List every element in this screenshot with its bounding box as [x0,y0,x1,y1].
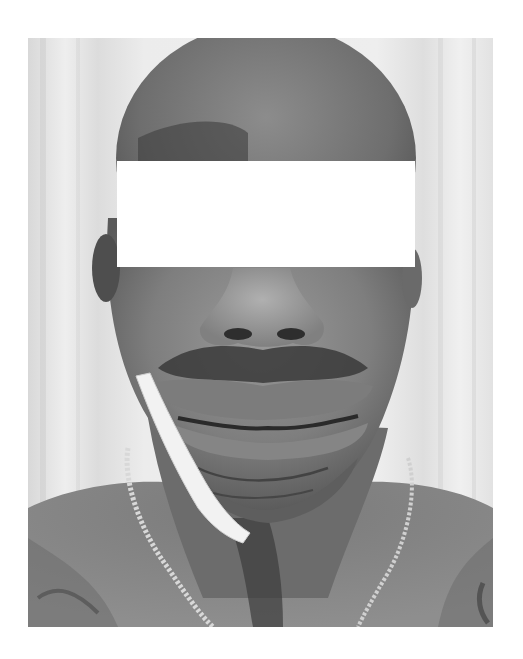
photo-canvas [28,38,493,627]
eye-redaction-box [117,161,415,267]
clinical-photo: Frontal clinical photograph of a patient… [28,38,493,627]
